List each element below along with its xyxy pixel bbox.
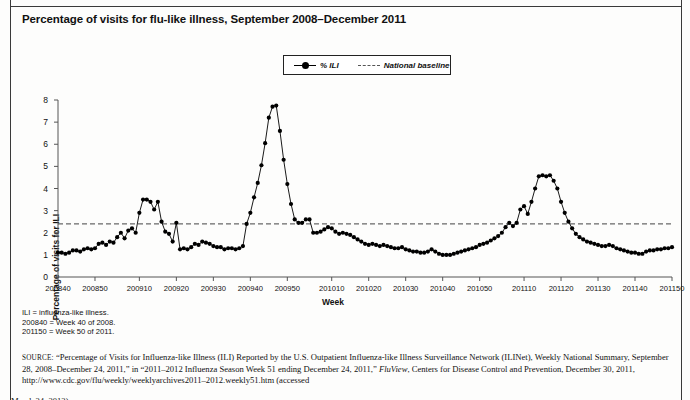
x-tick-label: 201020	[356, 284, 381, 293]
y-tick-label: 8	[34, 95, 48, 105]
x-tick-label: 201050	[467, 284, 492, 293]
x-tick-label: 201150	[660, 284, 685, 293]
y-tick-label: 1	[34, 250, 48, 260]
note-line-2: 200840 = Week 40 of 2008.	[22, 318, 115, 328]
y-tick-label: 0	[34, 272, 48, 282]
x-tick-label: 200930	[201, 284, 226, 293]
x-tick-label: 201110	[512, 284, 536, 293]
figure-page: Percentage of visits for flu-like illnes…	[0, 0, 690, 400]
y-tick-label: 5	[34, 161, 48, 171]
source-prefix: SOURCE:	[22, 354, 54, 362]
x-tick-label: 201010	[319, 284, 344, 293]
x-tick-label: 200910	[127, 284, 152, 293]
y-tick-label: 7	[34, 117, 48, 127]
x-tick-label: 201120	[549, 284, 574, 293]
source-publication: FluView	[379, 364, 407, 374]
x-tick-label: 201040	[430, 284, 455, 293]
y-tick-label: 4	[34, 184, 48, 194]
x-tick-label: 201030	[393, 284, 418, 293]
x-tick-label: 201130	[586, 284, 611, 293]
ili-line-chart	[0, 0, 690, 300]
x-tick-label: 200940	[238, 284, 263, 293]
note-line-1: ILI = influenza-like illness.	[22, 308, 115, 318]
y-tick-label: 2	[34, 228, 48, 238]
x-tick-label: 200920	[164, 284, 189, 293]
x-tick-label: 200850	[82, 284, 107, 293]
figure-source: SOURCE: “Percentage of Visits for Influe…	[22, 352, 672, 387]
x-tick-label: 200950	[275, 284, 300, 293]
y-tick-label: 6	[34, 139, 48, 149]
x-axis-title: Week	[322, 297, 344, 307]
source-clipped-line: March 24, 2012).	[11, 396, 681, 400]
y-tick-label: 3	[34, 206, 48, 216]
figure-notes: ILI = influenza-like illness. 200840 = W…	[22, 308, 115, 337]
x-tick-label: 201140	[623, 284, 648, 293]
x-tick-label: 200840	[45, 284, 70, 293]
note-line-3: 201150 = Week 50 of 2011.	[22, 327, 115, 337]
